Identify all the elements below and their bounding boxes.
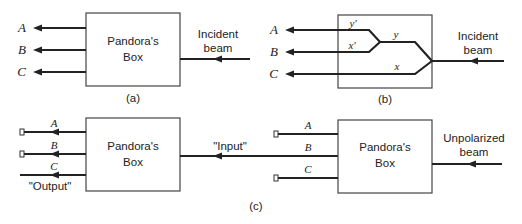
output-label-b-a: A (269, 22, 278, 37)
box-a-label-line1: Pandora's (107, 35, 159, 47)
pandoras-box-a (86, 13, 180, 86)
box-c-right-label-line1: Pandora's (359, 141, 411, 153)
box-c-right-label-line2: Box (375, 157, 395, 169)
unpolarized-label-line2: beam (460, 146, 489, 158)
path-label-y-prime: y' (348, 17, 357, 29)
panel-a: Pandora's Box A B C Incident beam (a) (17, 13, 250, 104)
left-output-label-a: A (50, 117, 58, 129)
beam-stop-icon (20, 129, 24, 135)
incident-label-b-line2: beam (464, 44, 493, 56)
beam-stop-icon (274, 175, 278, 181)
arrow-left-icon (50, 129, 59, 136)
output-label-b: B (18, 42, 26, 57)
box-a-label-line2: Box (123, 51, 143, 63)
beam-stop-icon (274, 131, 278, 137)
arrow-left-icon (469, 58, 478, 65)
path-label-x-prime: x' (347, 39, 356, 51)
beam-stop-icon (20, 151, 24, 157)
box-c-left-label-line2: Box (123, 156, 143, 168)
output-label-a: A (17, 20, 26, 35)
right-output-label-a: A (304, 119, 312, 131)
unpolarized-label-line1: Unpolarized (443, 132, 504, 144)
incident-label-a-line1: Incident (198, 28, 239, 40)
input-label: "Input" (213, 140, 247, 152)
path-label-y: y (393, 28, 399, 40)
incident-label-b-line1: Incident (458, 30, 499, 42)
caption-c: (c) (249, 200, 263, 212)
arrow-left-icon (213, 153, 222, 160)
arrow-left-icon (285, 49, 294, 56)
output-label-b-c: C (269, 66, 278, 81)
left-output-label-c: C (50, 160, 58, 172)
panel-b: Incident beam A B C y' x' y x (b) (269, 15, 504, 105)
path-label-x: x (394, 60, 400, 72)
caption-b: (b) (378, 93, 392, 105)
arrow-left-icon (285, 27, 294, 34)
arrow-left-icon (33, 25, 42, 32)
pandoras-box-diagram: Pandora's Box A B C Incident beam (a) In… (0, 0, 522, 224)
left-output-label-b: B (51, 139, 58, 151)
pandoras-box-c-left (86, 118, 180, 191)
arrow-left-icon (33, 47, 42, 54)
arrow-left-icon (285, 71, 294, 78)
arrow-left-icon (50, 172, 59, 179)
output-label-c: C (17, 64, 26, 79)
arrow-left-icon (213, 56, 222, 63)
arrow-left-icon (33, 69, 42, 76)
output-label: "Output" (29, 180, 72, 192)
arrow-left-icon (50, 151, 59, 158)
panel-c: Pandora's Box A B C "Output" "Input" Pan… (20, 117, 505, 212)
right-output-label-b: B (305, 141, 312, 153)
box-c-left-label-line1: Pandora's (107, 140, 159, 152)
caption-a: (a) (126, 92, 140, 104)
incident-label-a-line2: beam (204, 42, 233, 54)
arrow-left-icon (467, 161, 476, 168)
output-label-b-b: B (270, 44, 278, 59)
right-output-label-c: C (304, 163, 312, 175)
